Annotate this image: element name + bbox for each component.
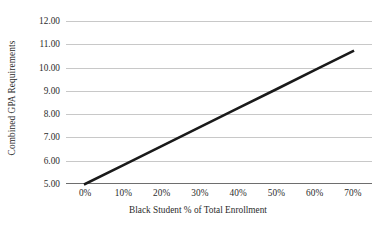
- y-tick-label: 6.00: [44, 156, 60, 166]
- x-axis-tick-labels: 0%10%20%30%40%50%60%70%: [66, 188, 372, 202]
- x-tick-label: 40%: [230, 188, 247, 198]
- y-tick-label: 10.00: [39, 63, 60, 73]
- y-axis-tick-labels: 5.006.007.008.009.0010.0011.0012.00: [24, 21, 64, 184]
- y-tick-label: 5.00: [44, 179, 60, 189]
- y-tick-label: 7.00: [44, 132, 60, 142]
- x-tick-label: 60%: [306, 188, 323, 198]
- plot-area: [66, 21, 372, 184]
- x-tick-label: 70%: [344, 188, 361, 198]
- x-tick-label: 0%: [79, 188, 91, 198]
- x-tick-label: 50%: [268, 188, 285, 198]
- x-axis-title: Black Student % of Total Enrollment: [24, 205, 372, 215]
- x-tick-label: 30%: [191, 188, 208, 198]
- line-chart: Combined GPA Requirements 5.006.007.008.…: [0, 0, 387, 233]
- y-tick-label: 11.00: [39, 39, 60, 49]
- x-axis-title-label: Black Student % of Total Enrollment: [129, 205, 267, 215]
- x-tick-label: 10%: [115, 188, 132, 198]
- series-polyline: [85, 51, 353, 184]
- y-tick-label: 9.00: [44, 86, 60, 96]
- y-axis-title-label: Combined GPA Requirements: [7, 41, 17, 156]
- y-axis-title: Combined GPA Requirements: [0, 0, 24, 196]
- y-tick-label: 12.00: [39, 16, 60, 26]
- x-tick-label: 20%: [153, 188, 170, 198]
- series-line: [66, 21, 372, 184]
- y-tick-label: 8.00: [44, 109, 60, 119]
